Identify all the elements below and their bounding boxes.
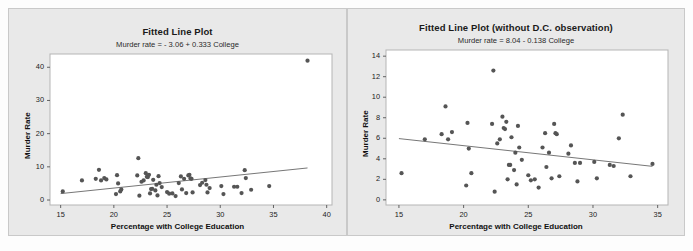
y-tick-label: 8 <box>360 113 380 122</box>
x-tick-label: 30 <box>581 210 605 219</box>
y-tick-label: 20 <box>24 129 44 138</box>
panel-fitted-line-plot: Fitted Line Plot Murder rate = - 3.06 + … <box>8 8 347 236</box>
y-tick-label: 30 <box>24 95 44 104</box>
y-tick-label: 10 <box>360 92 380 101</box>
panel-fitted-line-plot-without-dc: Fitted Line Plot (without D.C. observati… <box>347 8 685 236</box>
y-tick-label: 40 <box>24 62 44 71</box>
y-tick-label: 14 <box>360 51 380 60</box>
x-tick-label: 20 <box>452 210 476 219</box>
y-tick-label: 0 <box>24 195 44 204</box>
x-tick-label: 25 <box>155 210 179 219</box>
y-tick-label: 10 <box>24 162 44 171</box>
y-tick-label: 4 <box>360 154 380 163</box>
x-tick-label: 20 <box>102 210 126 219</box>
x-tick-label: 35 <box>646 210 670 219</box>
right-scatter-plot <box>348 9 686 237</box>
x-tick-label: 15 <box>49 210 73 219</box>
y-tick-label: 12 <box>360 72 380 81</box>
x-tick-label: 30 <box>208 210 232 219</box>
figure-sheet: Fitted Line Plot Murder rate = - 3.06 + … <box>0 0 693 251</box>
fitted-line-plot-panels: Fitted Line Plot Murder rate = - 3.06 + … <box>8 8 685 236</box>
left-scatter-plot <box>9 9 348 237</box>
x-tick-label: 40 <box>315 210 339 219</box>
x-tick-label: 25 <box>516 210 540 219</box>
y-tick-label: 6 <box>360 133 380 142</box>
x-tick-label: 15 <box>387 210 411 219</box>
y-tick-label: 2 <box>360 174 380 183</box>
y-tick-label: 0 <box>360 195 380 204</box>
x-tick-label: 35 <box>261 210 285 219</box>
